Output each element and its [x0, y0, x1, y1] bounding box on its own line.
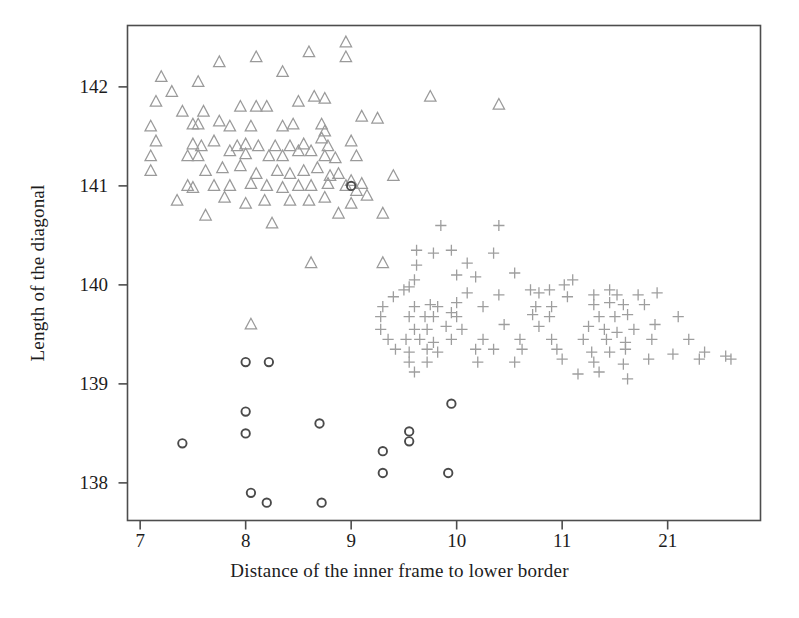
- xtick-21: 21: [658, 530, 677, 552]
- ytick-139: 139: [62, 373, 108, 395]
- y-axis-ticks: [119, 87, 128, 483]
- plot-frame: [128, 26, 761, 521]
- ytick-140: 140: [62, 274, 108, 296]
- x-axis-title: Distance of the inner frame to lower bor…: [0, 560, 799, 582]
- xtick-8: 8: [241, 530, 251, 552]
- ytick-138: 138: [62, 472, 108, 494]
- ytick-141: 141: [62, 175, 108, 197]
- scatter-plot-figure: 789101121 138139140141142 Distance of th…: [0, 0, 799, 618]
- x-axis-ticks: [140, 521, 668, 530]
- y-axis-title-wrapper: Length of the diagonal: [27, 13, 57, 533]
- y-axis-title: Length of the diagonal: [27, 13, 49, 533]
- xtick-10: 10: [447, 530, 466, 552]
- xtick-9: 9: [346, 530, 356, 552]
- xtick-7: 7: [135, 530, 145, 552]
- plot-canvas: [0, 0, 799, 618]
- ytick-142: 142: [62, 76, 108, 98]
- xtick-11: 11: [553, 530, 571, 552]
